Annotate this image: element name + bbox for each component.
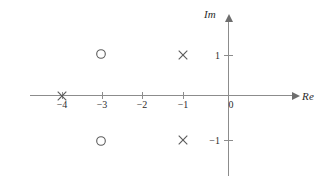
imaginary-axis-label: Im: [204, 8, 216, 20]
y-tick-label: 1: [196, 50, 220, 61]
x-tick-mark: [183, 92, 184, 99]
real-axis: [30, 95, 295, 96]
y-tick-mark: [224, 140, 233, 141]
zero-marker-circle-icon: [95, 135, 108, 148]
x-tick-mark: [102, 92, 103, 99]
real-axis-arrow-icon: [292, 92, 300, 100]
x-tick-label: −3: [97, 99, 108, 110]
imaginary-axis-arrow-icon: [225, 14, 233, 22]
x-tick-label-origin: 0: [229, 99, 234, 110]
y-tick-mark: [224, 55, 233, 56]
y-tick-label: −1: [196, 135, 220, 146]
x-tick-label: −2: [137, 99, 148, 110]
pole-zero-plot: Re Im −4 −3 −2 −1 0 1 −1: [0, 0, 327, 176]
real-axis-label: Re: [302, 90, 314, 102]
x-tick-mark: [142, 92, 143, 99]
pole-marker-x-icon: [177, 49, 190, 62]
zero-marker-circle-icon: [95, 48, 108, 61]
pole-marker-x-icon: [56, 90, 69, 103]
x-tick-label: −1: [178, 99, 189, 110]
pole-marker-x-icon: [177, 134, 190, 147]
